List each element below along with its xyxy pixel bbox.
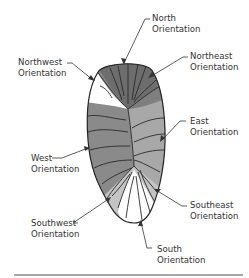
label-southeast: Southeast Orientation [190,200,239,222]
label-west: West Orientation [31,153,80,175]
label-southwest: Southwest Orientation [31,218,80,240]
label-northwest: Northwest Orientation [18,57,67,79]
label-north: North Orientation [152,13,201,35]
label-south: South Orientation [157,244,206,266]
label-east: East Orientation [190,116,239,138]
label-northeast: Northeast Orientation [190,51,239,73]
